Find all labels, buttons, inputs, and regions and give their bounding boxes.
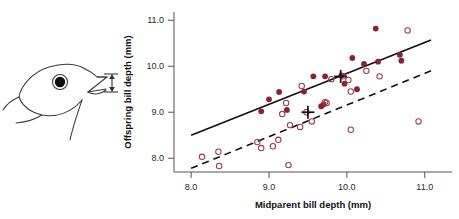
- data-point-open: [216, 163, 221, 168]
- data-point-open: [405, 28, 410, 33]
- scatter-plot: 8.09.010.011.0 8.09.010.011.0 Midparent …: [0, 0, 459, 219]
- data-point-filled: [258, 108, 264, 114]
- data-point-filled: [322, 73, 328, 79]
- x-tick-label: 10.0: [338, 182, 356, 192]
- data-point-filled: [397, 52, 403, 58]
- x-axis-title: Midparent bill depth (mm): [255, 199, 371, 210]
- x-axis-tick-labels: 8.09.010.011.0: [185, 182, 433, 192]
- y-axis-tick-labels: 8.09.010.011.0: [146, 15, 164, 163]
- data-point-open: [348, 89, 353, 94]
- mean-cross: [301, 106, 314, 119]
- regression-lines: [191, 40, 431, 168]
- data-point-open: [276, 137, 281, 142]
- y-axis-ticks: [168, 20, 174, 158]
- data-point-filled: [310, 73, 316, 79]
- data-point-open: [299, 83, 304, 88]
- data-point-filled: [276, 89, 282, 95]
- data-point-filled: [301, 89, 307, 95]
- data-point-filled: [375, 59, 381, 65]
- data-point-open: [280, 111, 285, 116]
- data-point-filled: [361, 61, 367, 67]
- x-axis-ticks: [191, 172, 425, 178]
- data-point-open: [377, 74, 382, 79]
- data-point-open: [346, 77, 351, 82]
- x-tick-label: 8.0: [185, 182, 198, 192]
- solid-regression-line: [191, 40, 431, 135]
- y-axis-title: Offspring bill depth (mm): [122, 35, 133, 148]
- data-point-open: [348, 127, 353, 132]
- data-point-open: [416, 119, 421, 124]
- figure-panel: 8.09.010.011.0 8.09.010.011.0 Midparent …: [0, 0, 459, 219]
- data-point-filled: [349, 55, 355, 61]
- data-point-open: [270, 144, 275, 149]
- data-point-open: [287, 122, 292, 127]
- data-point-open: [216, 149, 221, 154]
- data-point-open: [255, 139, 260, 144]
- data-point-open: [297, 124, 302, 129]
- data-point-open: [309, 119, 314, 124]
- data-point-filled: [284, 107, 290, 113]
- y-tick-label: 10.0: [146, 61, 164, 71]
- dashed-regression-line: [191, 71, 431, 168]
- data-point-open: [259, 145, 264, 150]
- x-tick-label: 11.0: [416, 182, 433, 192]
- data-point-filled: [354, 86, 360, 92]
- x-tick-label: 9.0: [263, 182, 276, 192]
- data-point-open: [283, 100, 288, 105]
- y-tick-label: 9.0: [151, 107, 164, 117]
- data-points: [199, 26, 421, 169]
- data-point-open: [199, 154, 204, 159]
- data-point-open: [364, 68, 369, 73]
- y-tick-label: 11.0: [147, 15, 164, 25]
- data-point-filled: [266, 96, 272, 102]
- y-tick-label: 8.0: [151, 153, 164, 163]
- data-point-open: [286, 162, 291, 167]
- data-point-filled: [373, 26, 379, 32]
- data-point-filled: [398, 58, 404, 64]
